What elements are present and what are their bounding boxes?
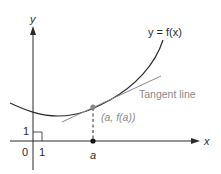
y-axis-arrow-icon — [30, 26, 36, 35]
curve-label: y = f(x) — [148, 27, 182, 38]
y-unit-label: 1 — [23, 126, 29, 137]
x-unit-label: 1 — [39, 147, 45, 158]
origin-label: 0 — [22, 147, 28, 158]
unit-square-marker — [33, 132, 42, 141]
x-axis-arrow-icon — [191, 138, 200, 144]
curve-label-text: y = f(x) — [148, 26, 182, 38]
a-tick-label: a — [90, 150, 96, 161]
point-label: (a, f(a)) — [101, 112, 135, 123]
tangency-point-icon — [90, 104, 95, 109]
tangent-label: Tangent line — [139, 89, 196, 100]
y-axis-label: y — [30, 14, 36, 25]
diagram-canvas — [0, 0, 221, 174]
a-point-icon — [90, 138, 95, 143]
x-axis-label: x — [204, 136, 210, 147]
